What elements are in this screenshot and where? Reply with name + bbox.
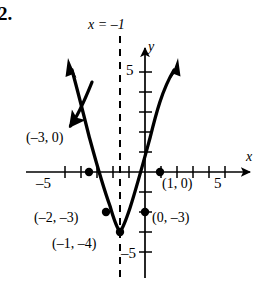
y-axis-label: y — [148, 40, 154, 54]
x-tick-label-negative-5: –5 — [36, 176, 51, 191]
y-tick-label-positive-5: 5 — [126, 63, 134, 78]
point-marker-x-intercept-right — [156, 168, 164, 176]
parabola-right-branch — [120, 70, 174, 232]
point-label-y-intercept: (0, –3) — [152, 211, 189, 225]
parabola-left-branch — [72, 70, 120, 232]
figure-container: 2. x = –1 x y –5 5 5 –5 (–3, 0) (1, 0) (… — [0, 0, 270, 285]
x-axis-label: x — [246, 150, 252, 164]
parabola-right-arrowhead — [171, 58, 181, 79]
point-label-left-mid: (–2, –3) — [34, 211, 78, 225]
problem-number: 2. — [0, 4, 12, 23]
y-tick-label-negative-5: –5 — [121, 246, 136, 261]
point-marker-left-mid — [102, 208, 110, 216]
axis-of-symmetry-label: x = –1 — [88, 18, 125, 32]
point-label-x-intercept-right: (1, 0) — [162, 177, 192, 191]
x-tick-label-positive-5: 5 — [214, 176, 222, 191]
point-label-vertex: (–1, –4) — [52, 237, 96, 251]
point-marker-vertex — [116, 228, 124, 236]
point-marker-y-intercept — [141, 208, 149, 216]
point-marker-x-intercept-left — [85, 168, 93, 176]
parabola-left-arrowhead — [66, 58, 77, 78]
point-label-x-intercept-left: (–3, 0) — [26, 131, 63, 145]
